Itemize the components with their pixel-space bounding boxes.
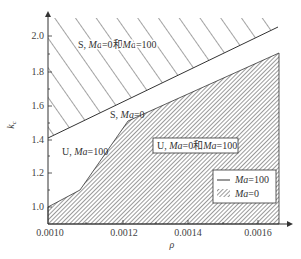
label-unstable-ma100: U, Ma=100 [62,146,108,157]
y-tick-1.4: 1.4 [32,134,45,145]
y-tick-1.6: 1.6 [32,100,45,111]
legend: Ma=100 Ma=0 [213,170,276,203]
legend-ma100: Ma=100 [234,174,269,185]
x-tick-0.0016: 0.0016 [244,227,272,238]
stability-chart: 1.0 1.2 1.4 1.6 1.8 2.0 0.0010 0.0012 0.… [0,0,301,259]
svg-text:U, Ma=0和Ma=100: U, Ma=0和Ma=100 [157,140,237,151]
x-tick-0.0014: 0.0014 [174,227,202,238]
legend-ma0: Ma=0 [234,188,259,199]
x-tick-0.0010: 0.0010 [36,227,64,238]
y-tick-1.2: 1.2 [32,167,45,178]
y-tick-1.8: 1.8 [32,66,45,77]
x-tick-0.0012: 0.0012 [110,227,138,238]
label-unstable-both-box: U, Ma=0和Ma=100 [153,138,238,153]
legend-hatch-swatch [217,189,230,197]
label-stable-both: S, Ma=0和Ma=100 [78,39,157,50]
y-tick-1.0: 1.0 [32,201,45,212]
y-axis-title: kc [5,120,18,128]
label-stable-ma0: S, Ma=0 [110,109,145,120]
x-axis-title: ρ [169,239,175,250]
y-tick-2.0: 2.0 [32,30,45,41]
